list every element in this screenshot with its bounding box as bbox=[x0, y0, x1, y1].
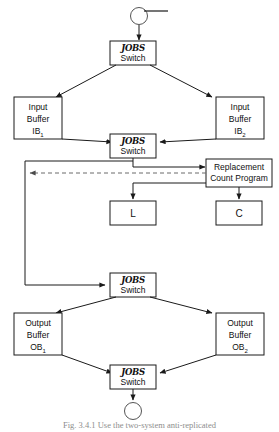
start-terminal bbox=[131, 8, 148, 25]
output-buffer-1-line1: Output bbox=[25, 318, 51, 328]
switch-bottom-script: JOBS bbox=[119, 367, 145, 377]
switch-mid-label: Switch bbox=[120, 146, 145, 156]
edge-switch-mid-to-replacement bbox=[133, 158, 205, 167]
end-terminal bbox=[125, 403, 142, 420]
box-l-label: L bbox=[130, 208, 136, 219]
switch-mid-script: JOBS bbox=[119, 136, 145, 146]
flowchart-diagram: JOBS Switch Input Buffer IB1 Input Buffe… bbox=[0, 0, 279, 432]
edge-ib2-to-switch-mid bbox=[160, 139, 216, 142]
switch-lower-label: Switch bbox=[120, 285, 145, 295]
input-buffer-1-line2: Buffer bbox=[27, 114, 50, 124]
edge-ib1-to-switch-mid bbox=[62, 139, 112, 142]
input-buffer-2-line1: Input bbox=[231, 102, 251, 112]
edge-ob2-to-switch-bottom bbox=[160, 355, 216, 373]
input-buffer-2-line2: Buffer bbox=[229, 114, 252, 124]
input-buffer-1-line1: Input bbox=[29, 102, 49, 112]
edge-switch-lower-to-ob2 bbox=[150, 297, 212, 313]
output-buffer-1-line2: Buffer bbox=[27, 330, 50, 340]
edge-switch-lower-to-ob1 bbox=[56, 297, 116, 313]
replacement-program-line2: Count Program bbox=[210, 173, 268, 183]
switch-lower-script: JOBS bbox=[119, 275, 145, 285]
edge-ob1-to-switch-bottom bbox=[62, 355, 112, 373]
switch-bottom-label: Switch bbox=[120, 377, 145, 387]
output-buffer-2-line2: Buffer bbox=[229, 330, 252, 340]
switch-top-script: JOBS bbox=[119, 43, 145, 53]
edge-switch-top-to-ib1 bbox=[56, 65, 116, 97]
output-buffer-2-line1: Output bbox=[227, 318, 253, 328]
replacement-program-line1: Replacement bbox=[214, 162, 265, 172]
edge-switch-top-to-ib2 bbox=[150, 65, 212, 97]
edge-replacement-to-l bbox=[133, 183, 206, 199]
figure-container: JOBS Switch Input Buffer IB1 Input Buffe… bbox=[0, 0, 279, 432]
figure-caption: Fig. 3.4.1 Use the two-system anti-repli… bbox=[0, 420, 279, 430]
switch-top-label: Switch bbox=[120, 53, 145, 63]
box-c-label: C bbox=[235, 208, 242, 219]
